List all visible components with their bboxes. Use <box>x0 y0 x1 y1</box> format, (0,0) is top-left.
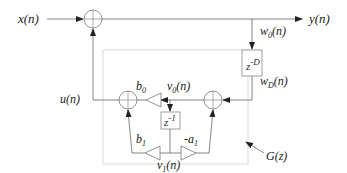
label-v1: v1(n) <box>157 159 180 173</box>
label-y: y(n) <box>309 12 330 25</box>
label-delay-1: z-1 <box>164 114 176 128</box>
label-x: x(n) <box>18 12 39 25</box>
label-w0: w0(n) <box>260 25 286 40</box>
label-wD: wD(n) <box>260 75 288 90</box>
label-u: u(n) <box>60 93 80 105</box>
label-v0: v0(n) <box>167 80 190 95</box>
adder-right <box>204 91 222 109</box>
label-b1: b1 <box>136 133 146 148</box>
subsystem-pointer-arrow <box>246 142 264 153</box>
a1-line <box>196 110 213 153</box>
label-a1: -a1 <box>184 133 198 148</box>
label-b0: b0 <box>136 80 146 95</box>
label-delay-D: z-D <box>246 58 260 72</box>
u-feedback-line <box>93 29 119 100</box>
adder-left <box>119 91 137 109</box>
label-subsystem: G(z) <box>266 150 287 162</box>
gain-b0-triangle <box>146 93 161 107</box>
adder-top <box>84 10 102 28</box>
